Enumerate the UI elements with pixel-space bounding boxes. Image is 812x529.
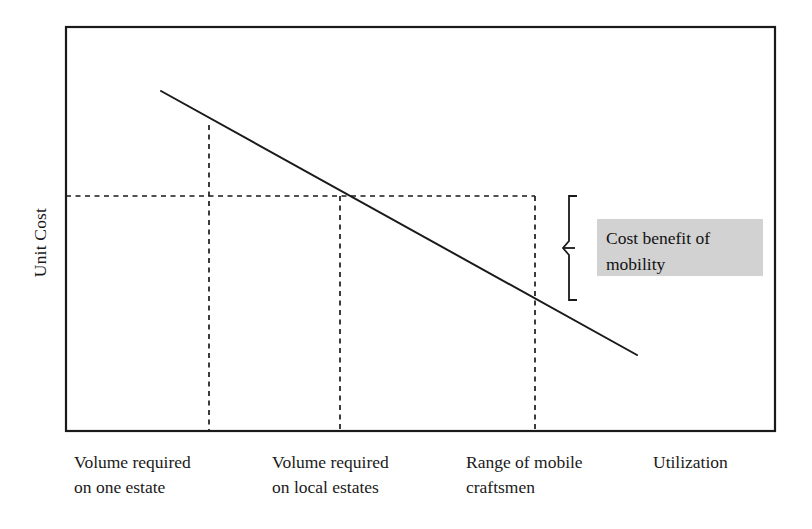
x-axis-label-range-mobile-craftsmen: Range of mobile craftsmen <box>466 450 583 500</box>
x-axis-label-volume-one-estate: Volume required on one estate <box>74 450 191 500</box>
y-axis-title: Unit Cost <box>30 163 51 323</box>
cost-benefit-annotation-label: Cost benefit of mobility <box>606 225 766 277</box>
chart-figure: Cost benefit of mobility Unit Cost Volum… <box>0 0 812 529</box>
x-axis-label-volume-local-estates: Volume required on local estates <box>272 450 389 500</box>
unit-cost-curve <box>161 91 637 355</box>
x-axis-label-utilization: Utilization <box>653 450 728 475</box>
